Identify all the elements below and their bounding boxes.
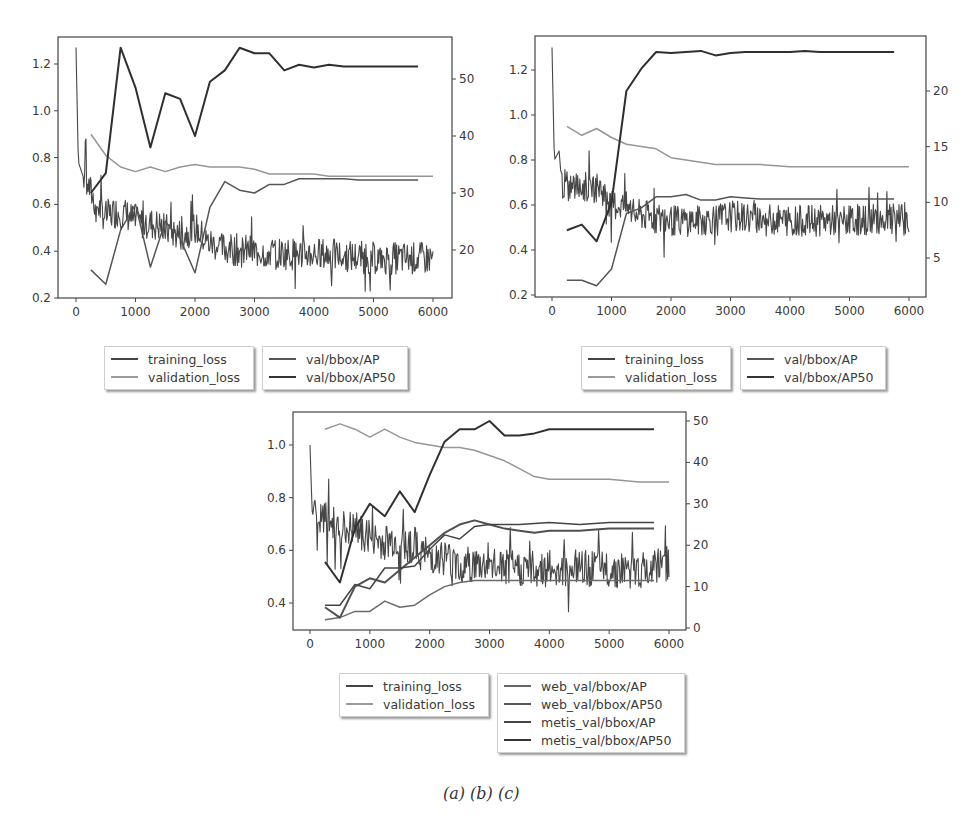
plot-area [310,421,669,620]
y-right-tick-label: 40 [693,455,708,469]
x-tick-label: 3000 [474,637,505,651]
legend-item: metis_val/bbox/AP [504,713,678,731]
series-validation-loss [325,424,669,482]
legend-item: validation_loss [111,368,247,386]
legend-item: validation_loss [588,368,724,386]
legend-item: val/bbox/AP [747,350,879,368]
line-swatch-icon [269,358,296,360]
y-right-tick-label: 0 [693,621,701,635]
x-tick-label: 6000 [654,637,685,651]
legend-item: web_val/bbox/AP50 [504,695,678,713]
line-swatch-icon [111,358,138,360]
legend-b-ap: val/bbox/AP val/bbox/AP50 [740,346,886,390]
y-right-tick-label: 30 [693,497,708,511]
series-web-val-bbox-ap [325,580,654,619]
x-tick-label: 5000 [594,637,625,651]
y-tick-label: 0.4 [267,596,286,610]
line-swatch-icon [346,685,373,687]
y-tick-label: 0.8 [267,491,286,505]
x-tick-label: 1000 [355,637,386,651]
y-tick-label: 1.0 [267,438,286,452]
legend-a-ap: val/bbox/AP val/bbox/AP50 [262,346,408,390]
legend-item: web_val/bbox/AP [504,677,678,695]
figure-caption: (a) (b) (c) [443,784,519,803]
legend-item: training_loss [588,350,724,368]
y-right-tick-label: 10 [693,580,708,594]
chart-c: 01000200030004000500060000.40.60.81.0010… [0,0,973,660]
line-swatch-icon [747,376,774,378]
legend-c-loss: training_loss validation_loss [339,673,489,717]
plot-frame [293,412,686,630]
line-swatch-icon [346,703,373,705]
line-swatch-icon [747,358,774,360]
line-swatch-icon [504,739,531,741]
y-right-tick-label: 50 [693,414,708,428]
x-tick-label: 4000 [534,637,565,651]
legend-item: val/bbox/AP50 [747,368,879,386]
legend-a-loss: training_loss validation_loss [104,346,254,390]
line-swatch-icon [504,703,531,705]
legend-item: validation_loss [346,695,482,713]
x-tick-label: 2000 [414,637,445,651]
line-swatch-icon [269,376,296,378]
line-swatch-icon [588,376,615,378]
x-tick-label: 0 [306,637,314,651]
line-swatch-icon [111,376,138,378]
legend-item: training_loss [111,350,247,368]
legend-item: training_loss [346,677,482,695]
legend-b-loss: training_loss validation_loss [581,346,731,390]
y-tick-label: 0.6 [267,543,286,557]
y-right-tick-label: 20 [693,538,708,552]
line-swatch-icon [588,358,615,360]
line-swatch-icon [504,685,531,687]
legend-c-ap: web_val/bbox/AP web_val/bbox/AP50 metis_… [497,673,685,753]
line-swatch-icon [504,721,531,723]
legend-item: metis_val/bbox/AP50 [504,731,678,749]
legend-item: val/bbox/AP50 [269,368,401,386]
legend-item: val/bbox/AP [269,350,401,368]
